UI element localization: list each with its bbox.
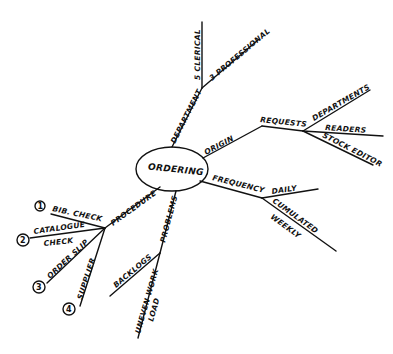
branch-origin: ORIGIN REQUESTS DEPARTMENTS READERS STOC… [203, 82, 384, 168]
professional-label: 3 PROFESSIONAL [208, 26, 272, 82]
problems-label: PROBLEMS [158, 194, 179, 243]
step-3-number: 3 [36, 283, 42, 292]
stock-editor-label: STOCK EDITOR [321, 131, 384, 169]
mind-map: ORDERING DEPARTMENT 5 CLERICAL 3 PROFESS… [0, 0, 393, 354]
clerical-label: 5 CLERICAL [193, 29, 202, 80]
departments-label: DEPARTMENTS [311, 82, 372, 122]
daily-label: DAILY [271, 183, 299, 196]
step-1-number: 1 [38, 202, 44, 211]
stock-editor-line [303, 131, 373, 165]
check-label: CHECK [43, 236, 74, 248]
branch-procedure: PROCEDURE BIB. CHECK 1 CATALOGUE CHECK 2… [17, 187, 160, 315]
procedure-label: PROCEDURE [109, 188, 159, 227]
branch-frequency: FREQUENCY DAILY CUMULATED WEEKLY [200, 173, 336, 251]
origin-label: ORIGIN [203, 134, 236, 157]
center-label: ORDERING [148, 162, 205, 178]
step-4-number: 4 [66, 305, 72, 314]
supplier-label: SUPPLIER [75, 257, 97, 301]
step-2-number: 2 [20, 236, 26, 245]
department-label: DEPARTMENT [169, 87, 204, 145]
center-node: ORDERING [136, 147, 208, 191]
cumulated-weekly-line [262, 198, 336, 251]
